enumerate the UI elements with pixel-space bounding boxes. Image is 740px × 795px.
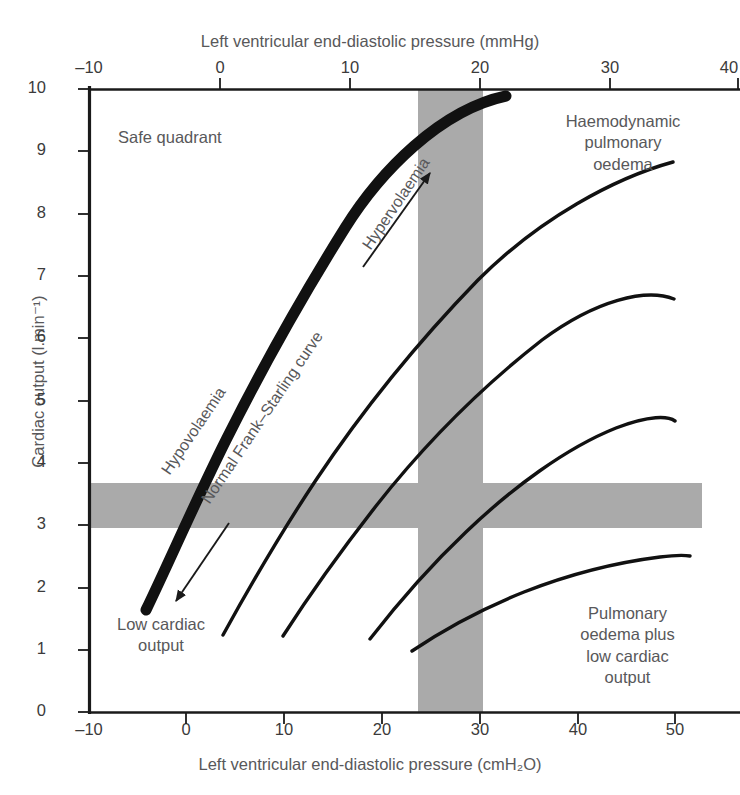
top-axis-ticks	[220, 78, 738, 89]
quadrant-label-line: output	[117, 635, 205, 656]
quadrant-label-safe: Safe quadrant	[118, 127, 222, 148]
quadrant-label-line: low cardiac	[520, 646, 735, 667]
quadrant-label-line: Low cardiac	[117, 614, 205, 635]
bottom-axis-ticks	[186, 713, 675, 724]
quadrant-label-line: oedema plus	[520, 624, 735, 645]
chart-figure: Left ventricular end-diastolic pressure …	[0, 0, 740, 795]
quadrant-label-haemodynamic-pulmonary-oedema: Haemodynamic pulmonary oedema	[508, 111, 738, 175]
quadrant-label-line: Pulmonary	[520, 603, 735, 624]
normal-cardiac-output-band	[89, 483, 702, 528]
quadrant-label-low-cardiac-output: Low cardiac output	[117, 614, 205, 657]
quadrant-label-line: oedema	[508, 154, 738, 175]
quadrant-label-pulmonary-oedema-plus-low-cardiac-output: Pulmonary oedema plus low cardiac output	[520, 603, 735, 689]
quadrant-label-line: pulmonary	[508, 132, 738, 153]
quadrant-label-line: output	[520, 667, 735, 688]
y-axis-ticks	[78, 89, 89, 712]
quadrant-label-line: Haemodynamic	[508, 111, 738, 132]
